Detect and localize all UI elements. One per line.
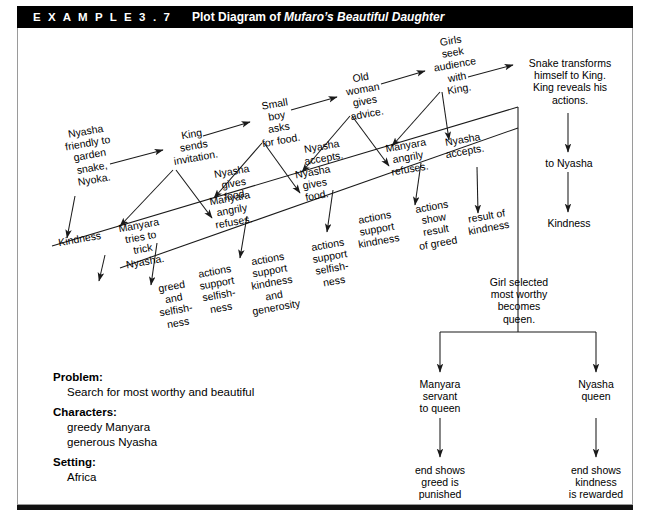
plot-event-2: King sends invitation. [160, 122, 227, 169]
characters-label: Characters: [53, 405, 353, 420]
setting-label: Setting: [53, 455, 353, 470]
ending-right-moral: end shows kindness is rewarded [548, 464, 644, 501]
ending-right-outcome: Nyasha queen [554, 378, 638, 402]
setting-value: Africa [67, 470, 353, 485]
branch-event-6: Nyasha accepts. [434, 128, 493, 162]
trait-result-5: actions support kindness [345, 206, 408, 252]
branch-event-4: Nyasha gives food. [286, 161, 344, 206]
branch-event-2: Manyara tries to trick Nyasha. [108, 214, 176, 272]
plot-diagram-canvas: Nyasha friendly to garden snake, Nyoka. … [0, 0, 651, 529]
plot-event-5: Girls seek audience with King. [417, 29, 493, 101]
ending-left-outcome: Manyara servant to queen [398, 378, 482, 415]
plot-event-4: Old woman gives advice. [331, 66, 397, 124]
ending-left-moral: end shows greed is punished [394, 464, 486, 501]
branch-event-1: Kindness [48, 227, 111, 250]
story-elements-block: Problem: Search for most worthy and beau… [53, 370, 353, 485]
problem-label: Problem: [53, 370, 353, 385]
resolution-to-nyasha: to Nyasha [528, 157, 610, 169]
problem-value: Search for most worthy and beautiful [67, 385, 353, 400]
resolution-climax: Snake transforms himself to King. King r… [505, 57, 635, 106]
ending-selected: Girl selected most worthy becomes queen. [458, 276, 580, 325]
characters-value-1: greedy Manyara [67, 420, 353, 435]
trait-result-7: result of kindness [455, 204, 520, 239]
plot-event-1: Nyasha friendly to garden snake, Nyoka. [50, 119, 130, 191]
resolution-theme: Kindness [528, 217, 610, 229]
trait-result-3: actions support kindness and generosity [236, 247, 308, 318]
characters-value-2: generous Nyasha [67, 435, 353, 450]
branch-event-5: Manyara angrily refuses. [376, 134, 439, 180]
